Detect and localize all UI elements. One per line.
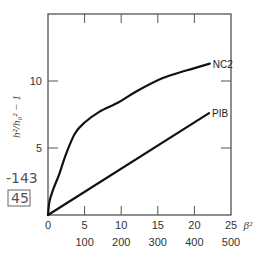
x-secondary-tick-label: 100 bbox=[75, 236, 93, 248]
y-tick-label: 10 bbox=[30, 75, 42, 87]
series-line-nc2 bbox=[48, 64, 210, 215]
y-axis-ticks: 510h²/h₀² − 1 bbox=[10, 75, 231, 154]
x-secondary-tick-label: 500 bbox=[222, 236, 240, 248]
series-label-nc2: NC2 bbox=[213, 59, 233, 70]
x-tick-label: 20 bbox=[188, 219, 200, 231]
x-axis-title: β² bbox=[243, 219, 253, 231]
series-label-pib: PIB bbox=[212, 108, 228, 119]
series-line-pib bbox=[48, 113, 209, 215]
handwritten-boxed-annotation: 45 bbox=[11, 190, 29, 206]
y-tick-label: 5 bbox=[36, 142, 42, 154]
x-secondary-tick-label: 400 bbox=[185, 236, 203, 248]
chart: 0510152025100200300400500β² 510h²/h₀² − … bbox=[0, 0, 265, 257]
x-secondary-tick-label: 200 bbox=[112, 236, 130, 248]
x-tick-label: 0 bbox=[45, 219, 51, 231]
x-secondary-tick-label: 300 bbox=[149, 236, 167, 248]
plot-border bbox=[48, 14, 231, 215]
y-axis-title: h²/h₀² − 1 bbox=[10, 95, 22, 138]
x-tick-label: 10 bbox=[115, 219, 127, 231]
x-tick-label: 25 bbox=[225, 219, 237, 231]
x-tick-label: 15 bbox=[152, 219, 164, 231]
x-tick-label: 5 bbox=[82, 219, 88, 231]
plot-frame bbox=[48, 14, 231, 215]
series-group bbox=[48, 64, 210, 215]
handwritten-annotation: -143 bbox=[6, 170, 38, 186]
